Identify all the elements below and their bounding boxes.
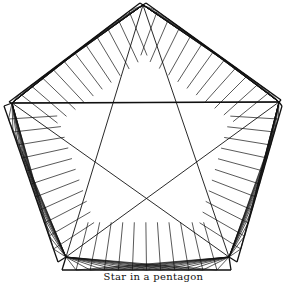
string-tick xyxy=(203,212,245,236)
string-tick xyxy=(141,11,157,55)
string-tick xyxy=(178,43,203,81)
string-line xyxy=(241,102,279,249)
star-edge xyxy=(12,103,229,257)
string-tick xyxy=(169,35,192,75)
string-tick xyxy=(96,36,120,76)
corner-edge xyxy=(9,102,12,103)
string-tick xyxy=(212,180,256,197)
string-line xyxy=(9,119,67,257)
corner-edge xyxy=(4,103,12,106)
string-tick xyxy=(36,180,80,197)
string-tick xyxy=(200,223,241,249)
string-tick xyxy=(85,44,111,82)
string-tick xyxy=(76,222,88,270)
string-tick xyxy=(224,137,271,145)
string-line xyxy=(229,223,248,257)
string-tick xyxy=(206,201,249,223)
string-tick xyxy=(107,28,129,69)
string-tick xyxy=(20,94,58,123)
string-tick xyxy=(31,86,67,117)
string-tick xyxy=(75,53,103,90)
figure-caption: Star in a pentagon xyxy=(0,271,287,282)
string-tick xyxy=(218,159,263,171)
corner-edge xyxy=(229,257,231,270)
string-art-lines xyxy=(9,5,280,270)
string-tick xyxy=(22,148,68,158)
string-tick xyxy=(31,169,76,184)
string-tick xyxy=(18,137,65,145)
string-tick xyxy=(54,223,95,249)
string-tick xyxy=(27,159,72,171)
star-edge xyxy=(66,5,143,257)
string-tick xyxy=(64,61,94,96)
string-tick xyxy=(53,69,85,103)
corner-edge xyxy=(143,3,146,5)
string-tick xyxy=(45,201,87,223)
string-tick xyxy=(215,169,260,184)
star-in-pentagon-figure xyxy=(0,0,287,282)
string-tick xyxy=(209,191,252,210)
string-line xyxy=(143,5,270,92)
string-tick xyxy=(224,84,259,115)
string-tick xyxy=(227,127,274,132)
star-edge xyxy=(66,102,279,257)
string-tick xyxy=(40,191,83,210)
string-tick xyxy=(215,76,248,109)
corner-edge xyxy=(279,102,282,106)
string-tick xyxy=(205,68,236,102)
string-line xyxy=(9,103,13,119)
string-tick xyxy=(196,60,225,96)
corner-edge xyxy=(279,100,281,102)
string-tick xyxy=(146,222,147,270)
corner-edge xyxy=(140,3,143,5)
string-tick xyxy=(13,127,61,132)
string-line xyxy=(12,11,129,103)
string-tick xyxy=(49,212,90,236)
string-tick xyxy=(221,148,267,158)
string-tick xyxy=(187,52,214,89)
star-edge xyxy=(143,5,229,257)
star-edge xyxy=(12,102,279,103)
string-tick xyxy=(230,116,278,119)
string-tick xyxy=(42,77,76,109)
